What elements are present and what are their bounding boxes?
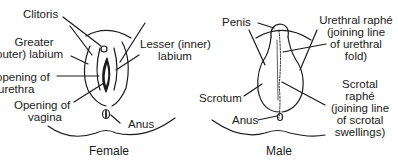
label-greater-labium-line1: Greater — [10, 36, 58, 48]
label-urethral-raphe-line3: of urethral — [313, 38, 398, 50]
label-lesser-labium-line2: labium — [150, 50, 200, 62]
label-scrotal-raphe-line3: (joining line — [322, 102, 398, 114]
label-scrotal-raphe-line4: of scrotal — [322, 114, 398, 126]
label-male-anus: Anus — [232, 114, 258, 126]
caption-male: Male — [266, 145, 292, 157]
female-figure — [48, 17, 175, 136]
label-urethral-raphe-line2: (joining line — [313, 26, 398, 38]
genitalia-diagram: Clitoris Greater outer) labium opening o… — [0, 0, 398, 161]
label-greater-labium-line2: outer) labium — [0, 48, 63, 60]
label-scrotum: Scrotum — [199, 92, 242, 104]
label-female-anus: Anus — [128, 118, 154, 130]
label-clitoris: Clitoris — [23, 8, 58, 20]
label-urethral-raphe-line1: Urethral raphé — [313, 14, 398, 26]
label-urethra-opening-line2: urethra — [0, 83, 34, 95]
label-vagina-opening-line2: vagina — [24, 111, 66, 123]
label-scrotal-raphe-line2: raphé — [322, 90, 398, 102]
caption-female: Female — [89, 145, 129, 157]
male-figure — [212, 23, 326, 136]
label-scrotal-raphe-line1: Scrotal — [322, 78, 398, 90]
label-urethra-opening-line1: opening of — [0, 71, 50, 83]
label-urethral-raphe-line4: fold) — [313, 50, 398, 62]
label-penis: Penis — [222, 16, 251, 28]
label-lesser-labium-line1: Lesser (inner) — [140, 38, 211, 50]
label-vagina-opening-line1: Opening of — [14, 99, 70, 111]
label-scrotal-raphe-line5: swellings) — [322, 126, 398, 138]
